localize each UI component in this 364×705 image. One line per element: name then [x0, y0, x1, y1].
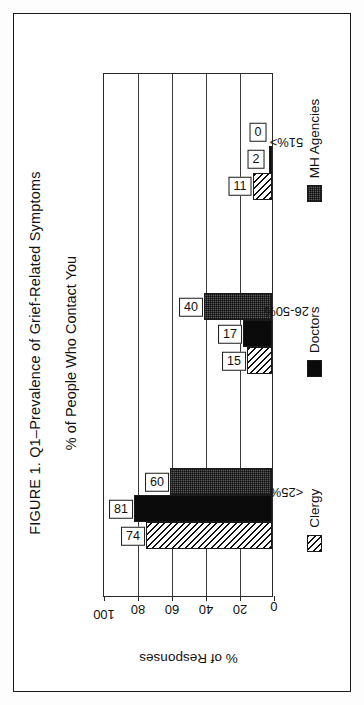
bar-value-label: 74: [121, 526, 145, 545]
bar-value-label: 60: [145, 472, 169, 491]
bar[interactable]: 74: [146, 522, 272, 549]
bar[interactable]: 11: [253, 172, 272, 199]
y-tick-label: 20: [233, 602, 247, 617]
plot-area: 020406080100748160<25%15174026-50%112051…: [103, 73, 273, 597]
legend-label: Doctors: [307, 306, 322, 353]
bar-value-label: 15: [222, 351, 246, 370]
legend-label: MH Agencies: [307, 98, 322, 178]
bar[interactable]: 15: [247, 347, 273, 374]
rotated-chart-stage: FIGURE 1. Q1–Prevalence of Grief-Related…: [19, 23, 345, 683]
bar-group: 748160: [104, 468, 272, 549]
bar-value-label: 40: [179, 297, 203, 316]
bar[interactable]: 17: [243, 320, 272, 347]
bar-group: 151740: [104, 293, 272, 374]
scanned-page: FIGURE 1. Q1–Prevalence of Grief-Related…: [0, 0, 364, 705]
legend-label: Clergy: [307, 488, 322, 527]
legend-item-doctors[interactable]: Doctors: [307, 306, 322, 377]
bar-value-label: 11: [229, 177, 252, 196]
legend-swatch-icon: [307, 534, 322, 551]
y-axis-title: % of Responses: [103, 649, 273, 669]
y-tick-label: 80: [131, 602, 145, 617]
y-tick-mark: [172, 596, 173, 601]
bar[interactable]: 60: [170, 468, 272, 495]
y-tick-label: 60: [165, 602, 179, 617]
legend-swatch-icon: [307, 185, 322, 202]
y-tick-label: 0: [270, 599, 277, 614]
bar-value-label: 81: [109, 499, 133, 518]
chart-canvas: FIGURE 1. Q1–Prevalence of Grief-Related…: [19, 23, 345, 683]
y-tick-label: 40: [199, 602, 213, 617]
y-tick-label: 100: [93, 606, 115, 621]
y-axis-title-text: % of Responses: [139, 651, 237, 666]
bar-value-label: 2: [247, 150, 264, 169]
chart-title: FIGURE 1. Q1–Prevalence of Grief-Related…: [27, 23, 43, 683]
y-tick-mark: [206, 596, 207, 601]
bar[interactable]: 81: [134, 495, 272, 522]
chart-legend: ClergyDoctorsMH Agencies: [299, 73, 339, 597]
legend-swatch-icon: [307, 360, 322, 377]
legend-item-mh-agencies[interactable]: MH Agencies: [307, 98, 322, 202]
y-tick-mark: [104, 596, 105, 601]
bar-group: 1120: [104, 118, 272, 199]
chart-subtitle: % of People Who Contact You: [63, 23, 79, 683]
bar-value-label: 0: [250, 123, 267, 142]
bar[interactable]: 40: [204, 293, 272, 320]
legend-item-clergy[interactable]: Clergy: [307, 488, 322, 551]
bar-value-label: 17: [218, 324, 242, 343]
y-tick-mark: [240, 596, 241, 601]
y-tick-mark: [138, 596, 139, 601]
